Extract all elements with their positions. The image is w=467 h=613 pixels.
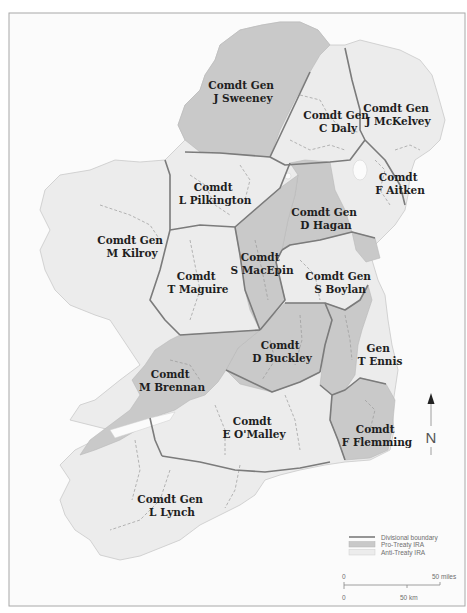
legend-label-anti: Anti-Treaty IRA [381, 549, 426, 557]
scale-miles-label: 50 miles [432, 573, 457, 580]
scale-km-zero: 0 [342, 594, 346, 601]
scale-km-label: 50 km [400, 594, 418, 601]
scale-miles-zero: 0 [342, 573, 346, 580]
label-sweeney: Comdt Gen J Sweeney [208, 79, 277, 104]
ireland-divisions-map: Comdt Gen J Sweeney Comdt Gen C Daly Com… [0, 0, 467, 613]
legend-pro-swatch-icon [349, 542, 375, 548]
label-aitken: Comdt F Aitken [375, 171, 425, 196]
label-mckelvey: Comdt Gen J McKelvey [363, 102, 432, 127]
label-hagan: Comdt Gen D Hagan [291, 206, 360, 231]
legend-label-pro: Pro-Treaty IRA [381, 541, 425, 549]
label-boylan: Comdt Gen S Boylan [305, 270, 374, 295]
label-kilroy: Comdt Gen M Kilroy [97, 234, 166, 259]
legend-anti-swatch-icon [349, 550, 375, 556]
north-label: N [426, 429, 437, 446]
lough-neagh [353, 160, 367, 180]
